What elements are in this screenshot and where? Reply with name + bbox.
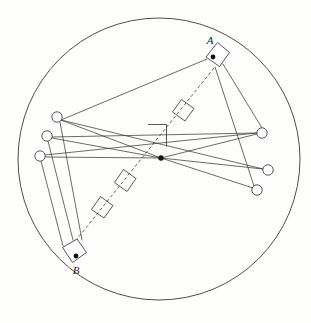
point-label-a: A bbox=[206, 34, 214, 46]
center-point-dot bbox=[158, 155, 163, 160]
node-circle-l2[interactable] bbox=[42, 131, 52, 141]
node-circle-r2[interactable] bbox=[263, 165, 273, 175]
ray-l3-center bbox=[45, 157, 161, 158]
source-ray-group bbox=[41, 64, 262, 246]
optics-diagram: A B bbox=[0, 0, 311, 323]
marker-box-upper bbox=[173, 100, 195, 122]
source-box-b[interactable] bbox=[63, 239, 87, 263]
ray-r1-center bbox=[161, 134, 257, 158]
chord-l1-a bbox=[61, 59, 207, 120]
ray-l2-center bbox=[52, 138, 161, 158]
ray-b-l3 bbox=[41, 161, 63, 246]
ray-b-l1 bbox=[60, 122, 82, 240]
source-b-group: B bbox=[63, 239, 87, 276]
ray-r3-center bbox=[161, 158, 253, 188]
source-box-a[interactable] bbox=[206, 43, 230, 67]
point-dot-b bbox=[74, 254, 79, 259]
point-dot-a bbox=[211, 55, 216, 60]
dashed-axis bbox=[73, 68, 214, 244]
center-ray-group bbox=[45, 120, 263, 188]
marker-box-lower bbox=[92, 197, 114, 219]
node-circle-r3[interactable] bbox=[252, 185, 262, 195]
right-node-group bbox=[252, 128, 273, 195]
node-circle-r1[interactable] bbox=[257, 128, 267, 138]
point-label-b: B bbox=[73, 264, 80, 276]
marker-box-group bbox=[92, 100, 195, 219]
ray-a-r1 bbox=[223, 64, 262, 128]
chord-l1-r2 bbox=[61, 120, 263, 169]
node-circle-l1[interactable] bbox=[52, 112, 62, 122]
ray-b-l2 bbox=[48, 141, 73, 240]
figure-root: A B bbox=[0, 0, 311, 323]
source-a-group: A bbox=[206, 34, 230, 67]
ray-a-r3 bbox=[215, 67, 254, 186]
node-circle-l3[interactable] bbox=[35, 151, 45, 161]
